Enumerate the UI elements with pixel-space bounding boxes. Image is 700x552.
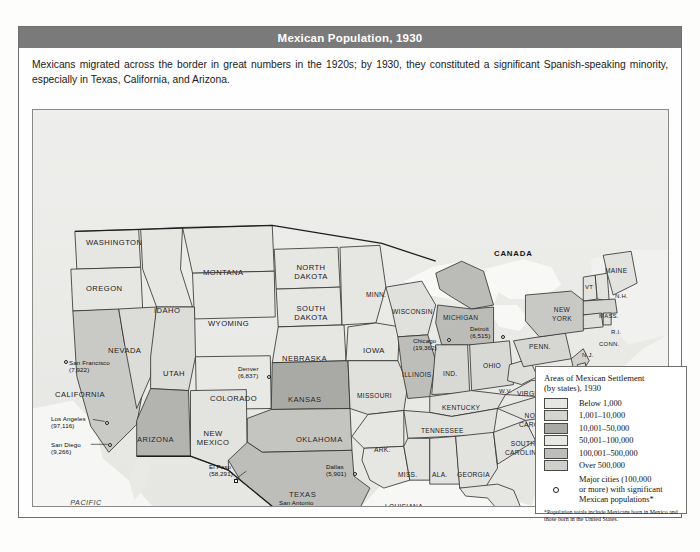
state-label-utah: UTAH bbox=[163, 369, 185, 378]
city-marker-san-diego[interactable] bbox=[108, 443, 112, 447]
state-label-rhode-island: R.I. bbox=[611, 329, 621, 335]
legend-row-major-cities: Major cities (100,000 or more) with sign… bbox=[544, 475, 679, 504]
state-label-vermont: VT bbox=[585, 284, 593, 290]
map-label-canada: CANADA bbox=[494, 249, 533, 258]
city-population: (6,837) bbox=[238, 372, 258, 379]
legend-label-10001-50000: 10,001–50,000 bbox=[579, 424, 629, 433]
legend-row-over-500000: Over 500,000 bbox=[544, 460, 679, 471]
city-marker-chicago[interactable] bbox=[447, 338, 451, 342]
state-label-connecticut: CONN. bbox=[599, 341, 619, 347]
city-label-el-paso: El Paso (58,291) bbox=[209, 463, 233, 478]
city-label-chicago: Chicago (19,362) bbox=[413, 337, 437, 352]
legend-swatch-below-1000 bbox=[544, 398, 568, 409]
state-label-missouri: MISSOURI bbox=[357, 392, 392, 399]
map-legend: Areas of Mexican Settlement (by states),… bbox=[535, 366, 687, 514]
legend-label-100001-500000: 100,001–500,000 bbox=[579, 449, 638, 458]
city-population: (19,362) bbox=[413, 344, 437, 351]
city-name: Dallas bbox=[326, 463, 344, 470]
legend-city-circle-icon bbox=[544, 487, 568, 493]
state-label-colorado: COLORADO bbox=[210, 394, 257, 403]
state-label-new-jersey: N.J. bbox=[582, 352, 593, 358]
state-label-arizona: ARIZONA bbox=[137, 435, 174, 444]
state-label-louisiana: LOUISIANA bbox=[385, 503, 423, 507]
state-label-kentucky: KENTUCKY bbox=[442, 404, 480, 411]
legend-label-50001-100000: 50,001–100,000 bbox=[579, 436, 633, 445]
state-label-michigan: MICHIGAN bbox=[443, 314, 478, 321]
city-label-los-angeles: Los Angeles (97,116) bbox=[51, 415, 86, 430]
city-population: (97,116) bbox=[51, 422, 74, 429]
city-population: (5,901) bbox=[326, 470, 346, 477]
legend-swatch-over-500000 bbox=[544, 460, 568, 471]
state-label-massachusetts: MASS. bbox=[599, 313, 619, 319]
city-label-san-francisco: San Francisco (7,922) bbox=[69, 359, 110, 374]
city-name: Los Angeles bbox=[51, 415, 86, 422]
state-label-iowa: IOWA bbox=[363, 346, 385, 355]
map-label-pacific-ocean: PACIFIC OCEAN bbox=[57, 498, 115, 507]
legend-row-10001-50000: 10,001–50,000 bbox=[544, 423, 679, 434]
city-marker-denver[interactable] bbox=[267, 375, 271, 379]
city-marker-el-paso[interactable] bbox=[234, 479, 238, 483]
city-population: (58,291) bbox=[209, 470, 233, 477]
legend-major-cities-line2: or more) with significant bbox=[579, 485, 663, 494]
legend-footnote: *Population totals include Mexicans born… bbox=[544, 509, 679, 523]
city-label-san-diego: San Diego (9,266) bbox=[51, 441, 81, 456]
legend-label-below-1000: Below 1,000 bbox=[579, 399, 622, 408]
city-marker-dallas[interactable] bbox=[353, 472, 357, 476]
state-label-south-dakota: SOUTH DAKOTA bbox=[288, 305, 334, 322]
city-marker-detroit[interactable] bbox=[501, 335, 505, 339]
city-name: Detroit bbox=[470, 325, 489, 332]
state-label-oregon: OREGON bbox=[86, 284, 122, 293]
city-population: (6,515) bbox=[470, 332, 490, 339]
state-label-georgia: GEORGIA bbox=[457, 471, 490, 478]
legend-major-cities-line3: Mexican populations* bbox=[579, 495, 654, 504]
legend-swatch-100001-500000 bbox=[544, 448, 568, 459]
state-label-tennessee: TENNESSEE bbox=[421, 427, 464, 434]
state-label-mississippi: MISS. bbox=[398, 471, 417, 478]
legend-swatch-50001-100000 bbox=[544, 435, 568, 446]
state-label-nevada: NEVADA bbox=[108, 346, 141, 355]
state-label-maine: MAINE bbox=[605, 267, 627, 274]
legend-swatch-1001-10000 bbox=[544, 410, 568, 421]
city-marker-los-angeles[interactable] bbox=[105, 421, 109, 425]
state-label-alabama: ALA. bbox=[432, 471, 448, 478]
city-name: El Paso bbox=[209, 463, 231, 470]
state-label-texas: TEXAS bbox=[289, 490, 316, 499]
state-label-montana: MONTANA bbox=[203, 268, 244, 277]
city-label-dallas: Dallas (5,901) bbox=[326, 463, 346, 478]
legend-label-over-500000: Over 500,000 bbox=[579, 461, 625, 470]
legend-label-major-cities: Major cities (100,000 or more) with sign… bbox=[579, 475, 663, 504]
state-label-minnesota: MINN. bbox=[366, 291, 386, 298]
city-name: San Diego bbox=[51, 441, 81, 448]
state-label-oklahoma: OKLAHOMA bbox=[296, 435, 343, 444]
figure-caption: Mexicans migrated across the border in g… bbox=[19, 48, 681, 95]
state-label-wisconsin: WISCONSIN bbox=[392, 308, 433, 315]
state-label-ohio: OHIO bbox=[483, 362, 501, 369]
page-title: Mexican Population, 1930 bbox=[278, 32, 423, 44]
legend-row-50001-100000: 50,001–100,000 bbox=[544, 435, 679, 446]
state-label-wyoming: WYOMING bbox=[208, 319, 249, 328]
state-label-nebraska: NEBRASKA bbox=[282, 354, 327, 363]
legend-major-cities-line1: Major cities (100,000 bbox=[579, 475, 651, 484]
figure-title-bar: Mexican Population, 1930 bbox=[19, 27, 681, 48]
state-label-new-york: NEW YORK bbox=[543, 306, 581, 323]
state-label-california: CALIFORNIA bbox=[55, 390, 105, 399]
state-label-indiana: IND. bbox=[443, 370, 457, 377]
state-label-arkansas: ARK. bbox=[374, 446, 391, 453]
state-label-washington: WASHINGTON bbox=[86, 238, 142, 247]
legend-swatch-10001-50000 bbox=[544, 423, 568, 434]
city-label-san-antonio: San Antonio (82,373) bbox=[279, 499, 313, 507]
legend-title-line1: Areas of Mexican Settlement bbox=[544, 373, 679, 383]
state-label-new-mexico: NEW MEXICO bbox=[191, 430, 235, 447]
city-name: Denver bbox=[238, 365, 259, 372]
map-figure-page: Mexican Population, 1930 Mexicans migrat… bbox=[0, 0, 700, 552]
state-label-west-virginia: W.V. bbox=[499, 388, 512, 394]
state-label-pennsylvania: PENN. bbox=[529, 343, 551, 350]
city-label-detroit: Detroit (6,515) bbox=[470, 325, 490, 340]
figure-frame: Mexican Population, 1930 Mexicans migrat… bbox=[18, 26, 682, 518]
state-label-idaho: IDAHO bbox=[154, 306, 180, 315]
city-marker-san-francisco[interactable] bbox=[64, 360, 68, 364]
state-label-kansas: KANSAS bbox=[288, 395, 322, 404]
state-label-new-hampshire: N.H. bbox=[615, 293, 628, 299]
legend-title: Areas of Mexican Settlement (by states),… bbox=[544, 373, 679, 394]
legend-label-1001-10000: 1,001–10,000 bbox=[579, 411, 625, 420]
